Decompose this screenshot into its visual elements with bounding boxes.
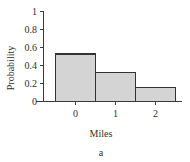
y-tick-label-0.8: 0.8 [25,24,38,35]
x-tick-label-1: 1 [113,108,118,119]
x-tick-label-2: 2 [153,108,158,119]
y-tick-label-0.6: 0.6 [25,42,38,53]
bar-1 [96,73,136,102]
y-tick-label-1: 1 [32,6,37,17]
bar-2 [136,88,176,102]
y-tick-label-0.2: 0.2 [25,78,38,89]
figure-container: Probability 1 0.8 0.6 0.4 0.2 0 0 1 2 Mi… [0,0,190,162]
y-axis-title: Probability [5,46,16,90]
x-axis-title: Miles [90,128,113,139]
x-tick-label-0: 0 [73,108,78,119]
figure-caption: a [99,147,104,158]
bar-0 [56,54,96,102]
bar-chart: Probability 1 0.8 0.6 0.4 0.2 0 0 1 2 Mi… [0,0,190,162]
y-tick-label-0.4: 0.4 [25,60,38,71]
